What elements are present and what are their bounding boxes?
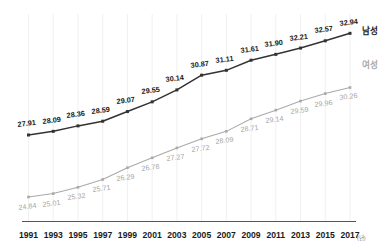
x-tick-1997: 1997: [91, 231, 115, 240]
data-label-female: 25.01: [42, 198, 61, 207]
x-tick-2005: 2005: [190, 231, 214, 240]
data-label-female: 29.96: [314, 98, 333, 107]
data-point-marker: [324, 92, 327, 95]
data-point-marker: [101, 178, 104, 181]
data-label-female: 27.27: [166, 153, 185, 162]
data-point-marker: [200, 74, 203, 77]
data-point-marker: [101, 120, 104, 123]
data-point-marker: [349, 86, 352, 89]
data-point-marker: [250, 118, 253, 121]
x-tick-2007: 2007: [214, 231, 238, 240]
data-point-marker: [299, 100, 302, 103]
data-label-female: 29.14: [265, 115, 284, 124]
x-tick-2011: 2011: [264, 231, 288, 240]
data-point-marker: [126, 110, 129, 113]
data-label-female: 28.71: [240, 124, 259, 133]
data-point-marker: [275, 109, 278, 112]
x-tick-2009: 2009: [239, 231, 263, 240]
data-label-male: 32.94: [339, 18, 358, 28]
data-label-female: 24.84: [18, 202, 37, 211]
data-point-marker: [27, 196, 30, 199]
x-axis-unit-label: (년): [357, 236, 366, 242]
data-label-male: 32.21: [289, 32, 308, 42]
data-label-male: 31.11: [215, 55, 234, 65]
x-tick-2013: 2013: [289, 231, 313, 240]
x-tick-1999: 1999: [115, 231, 139, 240]
data-point-marker: [250, 59, 253, 62]
data-label-male: 31.90: [264, 39, 283, 49]
data-point-marker: [349, 32, 352, 35]
data-point-marker: [299, 47, 302, 50]
data-point-marker: [151, 157, 154, 160]
legend-label-male: 남성: [362, 27, 378, 36]
data-label-male: 30.87: [190, 59, 209, 69]
data-point-marker: [274, 53, 277, 56]
x-tick-1991: 1991: [17, 231, 41, 240]
data-point-marker: [77, 186, 80, 189]
series-line-female: [29, 88, 351, 198]
data-label-male: 28.59: [91, 106, 110, 116]
data-point-marker: [52, 130, 55, 133]
data-label-female: 25.32: [67, 192, 86, 201]
data-point-marker: [225, 69, 228, 72]
data-label-male: 31.61: [240, 45, 259, 55]
data-label-female: 26.78: [141, 163, 160, 172]
data-point-marker: [225, 130, 228, 133]
data-label-female: 29.59: [290, 106, 309, 115]
data-point-marker: [176, 147, 179, 150]
legend-label-female: 여성: [362, 61, 378, 70]
data-point-marker: [151, 100, 154, 103]
data-label-female: 27.72: [191, 144, 210, 153]
data-point-marker: [27, 133, 30, 136]
data-label-male: 28.09: [42, 116, 61, 126]
data-point-marker: [76, 124, 79, 127]
x-tick-2003: 2003: [165, 231, 189, 240]
line-chart: 27.9128.0928.3628.5929.0729.5530.1430.87…: [0, 0, 392, 244]
data-point-marker: [200, 138, 203, 141]
x-tick-1995: 1995: [66, 231, 90, 240]
x-tick-1993: 1993: [41, 231, 65, 240]
x-tick-2015: 2015: [313, 231, 337, 240]
x-tick-2001: 2001: [140, 231, 164, 240]
data-point-marker: [324, 39, 327, 42]
data-label-male: 29.07: [116, 96, 135, 106]
data-point-marker: [52, 192, 55, 195]
data-point-marker: [126, 166, 129, 169]
data-label-female: 26.29: [117, 173, 136, 182]
data-point-marker: [175, 88, 178, 91]
